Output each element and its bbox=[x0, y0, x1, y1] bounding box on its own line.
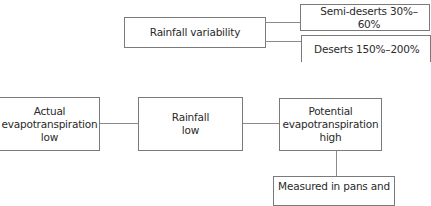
connector-potential-to-measured bbox=[336, 151, 337, 177]
potential-evapotranspiration-label: Potential evapotranspiration high bbox=[282, 105, 378, 144]
semi-deserts-label: Semi-deserts 30%–60% bbox=[309, 5, 429, 31]
connector-variability-to-deserts bbox=[265, 41, 301, 42]
measured-label: Measured in pans and bbox=[278, 180, 390, 193]
rainfall-low-label: Rainfall low bbox=[172, 111, 209, 137]
connector-rainfall-to-potential bbox=[243, 123, 279, 124]
potential-evapotranspiration-node: Potential evapotranspiration high bbox=[279, 98, 382, 151]
rainfall-variability-node: Rainfall variability bbox=[124, 17, 266, 48]
actual-evapotranspiration-label: Actual evapotranspiration low bbox=[1, 105, 97, 144]
deserts-label: Deserts 150%–200% bbox=[314, 43, 420, 56]
rainfall-low-node: Rainfall low bbox=[138, 97, 243, 151]
deserts-node: Deserts 150%–200% bbox=[301, 35, 431, 62]
connector-actual-to-rainfall bbox=[100, 123, 138, 124]
measured-node: Measured in pans and bbox=[273, 176, 395, 206]
rainfall-variability-label: Rainfall variability bbox=[150, 26, 240, 39]
semi-deserts-node: Semi-deserts 30%–60% bbox=[300, 4, 430, 31]
actual-evapotranspiration-node: Actual evapotranspiration low bbox=[0, 97, 100, 151]
connector-variability-to-semi bbox=[265, 22, 300, 23]
